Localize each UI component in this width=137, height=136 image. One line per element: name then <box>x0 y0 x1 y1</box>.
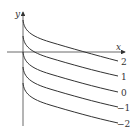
curve-label-0: 0 <box>121 88 127 98</box>
curve-label-1: 1 <box>121 72 127 82</box>
x-axis-label: x <box>116 42 121 52</box>
curve-label-neg2: −2 <box>117 119 130 129</box>
chart: x y 2 1 0 −1 −2 <box>0 0 137 136</box>
curve-label-2: 2 <box>121 57 127 67</box>
curve-2 <box>23 20 118 61</box>
curve-label-neg1: −1 <box>117 103 130 113</box>
curve-1 <box>23 36 118 76</box>
y-axis-label: y <box>14 9 21 19</box>
curve-0 <box>23 52 118 92</box>
